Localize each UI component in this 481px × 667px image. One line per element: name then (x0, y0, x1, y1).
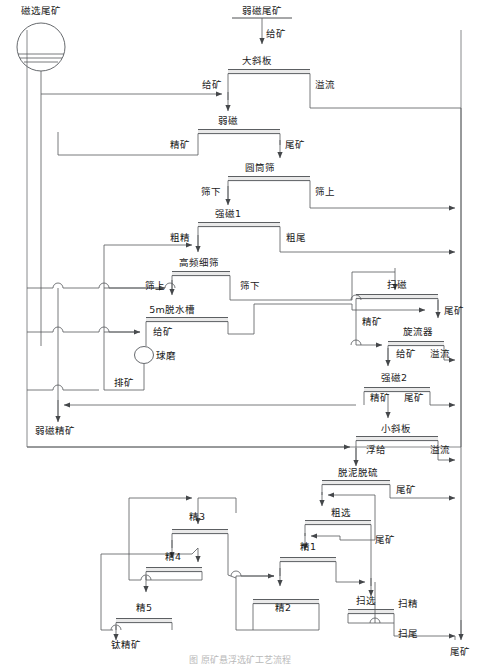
label-cleaner-5: 精5 (136, 602, 152, 613)
figure-caption: 图 原矿悬浮选矿工艺流程 (189, 654, 291, 665)
label-scavenger: 扫选 (356, 595, 376, 606)
label-overflow-bigplate: 溢流 (315, 79, 335, 90)
label-tail-weakmag: 尾矿 (285, 139, 305, 150)
label-strong-mag-2: 强磁2 (381, 372, 407, 383)
label-small-incline-plate: 小斜板 (381, 423, 411, 434)
label-overflow-smallplate: 溢流 (430, 444, 450, 455)
label-feed-top: 给矿 (266, 28, 286, 39)
label-rough-tail: 粗尾 (286, 232, 306, 243)
label-weak-mag-conc: 弱磁精矿 (35, 425, 75, 436)
label-dewater-tank: 5m脱水槽 (149, 304, 194, 315)
label-top-feed: 弱磁尾矿 (242, 5, 282, 16)
label-float-feed: 浮给 (366, 444, 386, 455)
label-scav-tail: 扫尾 (398, 628, 418, 639)
flowsheet-diagram: 磁选尾矿 弱磁尾矿 给矿 大斜板 给矿 溢流 弱磁 精矿 尾矿 圆筒筛 筛下 筛… (0, 0, 481, 667)
label-scav-conc: 扫精 (398, 598, 418, 609)
label-weak-mag: 弱磁 (218, 115, 238, 126)
label-source: 磁选尾矿 (21, 5, 61, 16)
label-cleaner-1: 精1 (300, 541, 316, 552)
label-feed-bigplate: 给矿 (202, 79, 222, 90)
label-overflow-cyclone: 溢流 (430, 348, 450, 359)
label-over-hf: 筛上 (145, 280, 165, 291)
label-over-drum: 筛上 (315, 186, 335, 197)
label-rougher: 粗选 (331, 507, 351, 518)
label-strong-mag-1: 强磁1 (215, 208, 241, 219)
label-tail-desliming: 尾矿 (396, 484, 416, 495)
flowsheet-svg: 磁选尾矿 弱磁尾矿 给矿 大斜板 给矿 溢流 弱磁 精矿 尾矿 圆筒筛 筛下 筛… (0, 0, 481, 667)
label-ball-mill: 球磨 (156, 350, 176, 361)
label-scavenge-mag: 扫磁 (387, 279, 407, 290)
label-cleaner-2: 精2 (275, 602, 291, 613)
label-conc-strongmag2: 精矿 (370, 392, 390, 403)
label-cyclone: 旋流器 (403, 326, 433, 337)
label-tail-scavmag: 尾矿 (444, 305, 464, 316)
label-final-tailings: 尾矿 (450, 646, 470, 657)
label-under-drum: 筛下 (201, 186, 221, 197)
label-desliming-desulf: 脱泥脱硫 (338, 467, 378, 478)
label-tail-strongmag2: 尾矿 (404, 392, 424, 403)
label-cleaner-4: 精4 (165, 551, 181, 562)
label-big-incline-plate: 大斜板 (242, 55, 272, 66)
label-hf-fine-screen: 高频细筛 (179, 257, 219, 268)
label-mill-discharge: 排矿 (114, 377, 134, 388)
label-rough-conc: 粗精 (170, 232, 190, 243)
label-under-hf: 筛下 (240, 280, 260, 291)
label-conc-weakmag: 精矿 (170, 139, 190, 150)
label-ti-conc: 钛精矿 (111, 639, 141, 650)
label-feed-cyclone: 给矿 (396, 348, 416, 359)
label-feed-dewater: 给矿 (153, 326, 173, 337)
label-drum-screen: 圆筒筛 (245, 162, 275, 173)
label-tail-rougher: 尾矿 (375, 534, 395, 545)
label-conc-scavmag: 精矿 (362, 316, 382, 327)
label-cleaner-3: 精3 (189, 511, 205, 522)
